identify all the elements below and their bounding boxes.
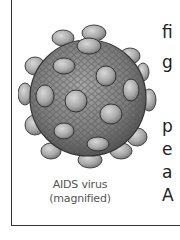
text-fragment: p (162, 116, 173, 136)
text-fragment: fi (162, 22, 173, 42)
text-fragment: g (162, 52, 173, 72)
aids-virus-illustration (18, 22, 160, 170)
caption-line-2: (magnified) (30, 192, 130, 206)
text-fragment: a (162, 162, 172, 182)
figure-caption: AIDS virus (magnified) (30, 178, 130, 206)
text-fragment: A (162, 185, 174, 205)
text-fragment: e (162, 139, 172, 159)
caption-line-1: AIDS virus (30, 178, 130, 192)
